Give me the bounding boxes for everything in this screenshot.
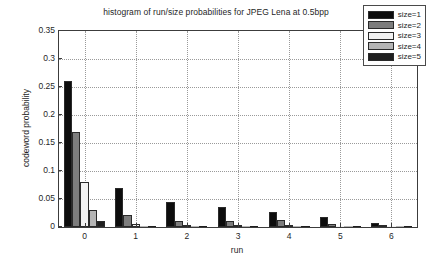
x-tick-mark	[136, 223, 137, 227]
legend-swatch-icon	[368, 11, 394, 19]
bar	[404, 226, 412, 227]
legend-item-label: size=3	[398, 31, 421, 40]
x-axis-label: run	[58, 245, 416, 255]
bar	[115, 188, 123, 227]
bar	[353, 226, 361, 227]
x-tick-label: 3	[236, 231, 241, 241]
y-tick-mark	[58, 142, 62, 143]
y-tick-mark	[58, 198, 62, 199]
bar	[191, 226, 199, 227]
gridline-vertical	[136, 31, 137, 227]
legend-item[interactable]: size=4	[368, 41, 421, 51]
gridline-vertical	[187, 31, 188, 227]
y-tick-mark	[58, 226, 62, 227]
legend-item-label: size=1	[398, 10, 421, 19]
gridline-vertical	[238, 31, 239, 227]
x-tick-mark	[289, 223, 290, 227]
y-tick-mark	[58, 170, 62, 171]
x-tick-label: 4	[287, 231, 292, 241]
y-tick-mark	[58, 58, 62, 59]
bar	[226, 221, 234, 227]
x-tick-label: 2	[184, 231, 189, 241]
x-tick-mark	[187, 223, 188, 227]
bar	[97, 221, 105, 227]
bar	[199, 226, 207, 227]
x-tick-label: 0	[82, 231, 87, 241]
legend-item-label: size=4	[398, 42, 421, 51]
x-tick-mark	[391, 223, 392, 227]
bar	[379, 225, 387, 227]
bar	[301, 226, 309, 227]
legend-item[interactable]: size=5	[368, 52, 421, 62]
legend-swatch-icon	[368, 32, 394, 40]
legend: size=1size=2size=3size=4size=5	[363, 5, 426, 66]
bar	[277, 220, 285, 227]
y-tick-mark	[58, 30, 62, 31]
bar	[140, 226, 148, 227]
legend-item[interactable]: size=1	[368, 10, 421, 20]
legend-item-label: size=2	[398, 21, 421, 30]
legend-item[interactable]: size=3	[368, 31, 421, 41]
x-tick-label: 5	[338, 231, 343, 241]
legend-swatch-icon	[368, 42, 394, 50]
x-tick-label: 1	[133, 231, 138, 241]
gridline-vertical	[340, 31, 341, 227]
y-tick-label: 0.05	[38, 193, 55, 203]
bar	[293, 226, 301, 227]
y-tick-label: 0.35	[38, 25, 55, 35]
y-tick-label: 0	[50, 221, 55, 231]
x-tick-label: 6	[389, 231, 394, 241]
y-tick-label: 0.2	[43, 109, 55, 119]
x-tick-mark	[85, 223, 86, 227]
bar	[64, 81, 72, 227]
legend-swatch-icon	[368, 53, 394, 61]
bar	[320, 217, 328, 227]
bar	[371, 223, 379, 227]
y-axis-label: codeword probability	[21, 30, 34, 226]
bar	[148, 226, 156, 227]
x-tick-mark	[238, 223, 239, 227]
y-tick-label: 0.15	[38, 137, 55, 147]
bar	[80, 182, 88, 227]
x-tick-mark	[340, 223, 341, 227]
bar	[89, 210, 97, 227]
y-tick-label: 0.1	[43, 165, 55, 175]
bar	[396, 226, 404, 227]
bar	[328, 224, 336, 227]
bar	[72, 132, 80, 227]
legend-item[interactable]: size=2	[368, 20, 421, 30]
y-tick-label: 0.25	[38, 81, 55, 91]
bar	[218, 207, 226, 227]
y-tick-mark	[58, 86, 62, 87]
bar	[242, 226, 250, 227]
y-tick-label: 0.3	[43, 53, 55, 63]
bar	[175, 221, 183, 227]
bar	[269, 212, 277, 227]
y-tick-mark	[58, 114, 62, 115]
bar	[123, 215, 131, 227]
bar	[166, 202, 174, 227]
legend-item-label: size=5	[398, 52, 421, 61]
figure-canvas: histogram of run/size probabilities for …	[0, 0, 432, 263]
legend-swatch-icon	[368, 21, 394, 29]
bar	[344, 226, 352, 227]
gridline-vertical	[289, 31, 290, 227]
bar	[250, 226, 258, 227]
